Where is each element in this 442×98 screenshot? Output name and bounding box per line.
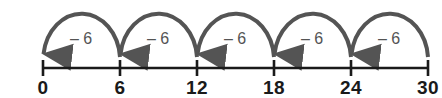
number-line-graphic [0,0,442,98]
number-line-figure: 0612182430 – 6– 6– 6– 6– 6 [0,0,442,98]
jump-label: – 6 [70,31,92,47]
tick-label-18: 18 [263,78,285,97]
tick-label-0: 0 [37,78,48,97]
tick-label-30: 30 [417,78,439,97]
tick-label-12: 12 [186,78,208,97]
jump-label: – 6 [301,31,323,47]
jump-label: – 6 [378,31,400,47]
jump-label: – 6 [224,31,246,47]
axis-group [43,60,428,76]
jump-label: – 6 [147,31,169,47]
tick-label-24: 24 [340,78,362,97]
tick-label-6: 6 [114,78,125,97]
